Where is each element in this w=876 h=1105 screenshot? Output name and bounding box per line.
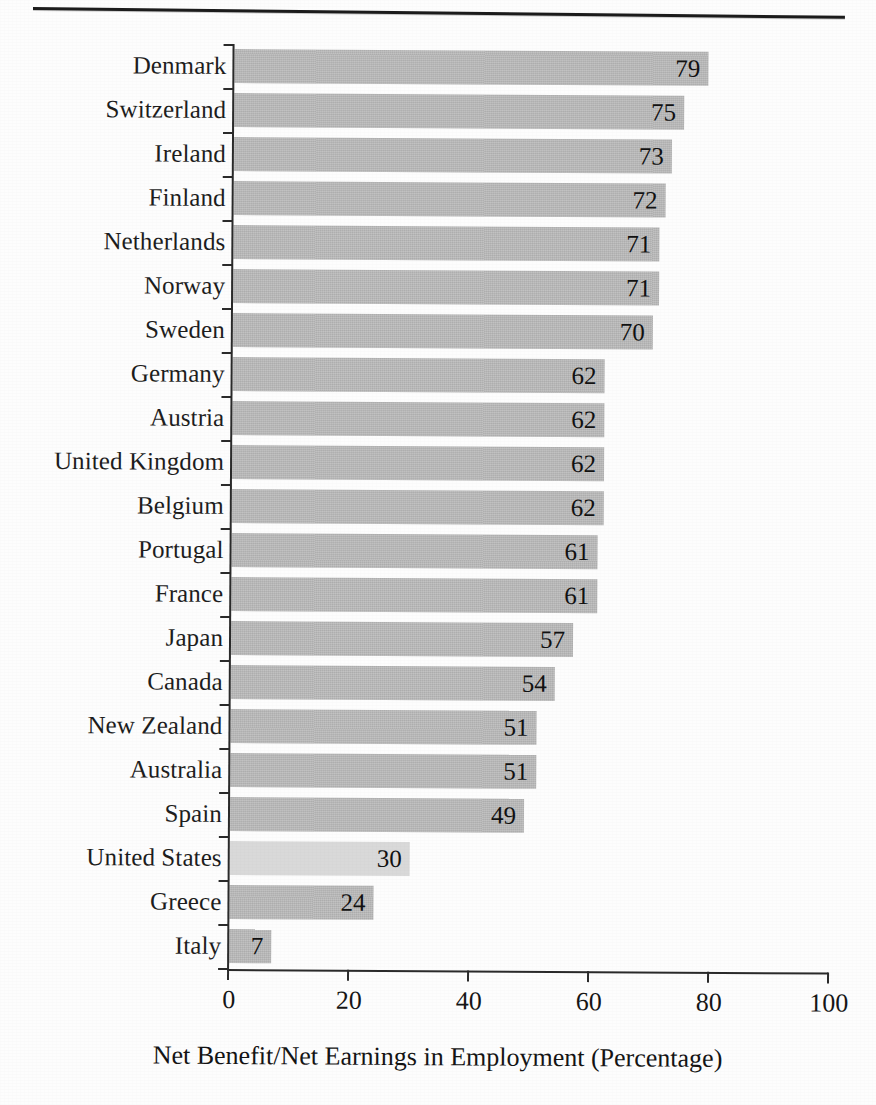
bar-category-label: United States (86, 835, 222, 880)
bar-category-label: New Zealand (87, 703, 222, 748)
y-axis-tick (223, 88, 233, 90)
y-axis-tick (221, 440, 231, 442)
bar-category-label: Austria (150, 396, 225, 440)
x-axis-tick-label: 80 (696, 988, 722, 1018)
bar-value-label: 70 (233, 313, 645, 349)
bar-track: 61 (231, 577, 851, 615)
y-axis-tick (219, 836, 229, 838)
bar-track: 75 (234, 93, 854, 131)
bar-track: 24 (229, 885, 849, 923)
figure-container: Denmark79Switzerland75Ireland73Finland72… (0, 0, 876, 1105)
horizontal-rule (33, 7, 845, 19)
y-axis-tick (219, 748, 229, 750)
bar-row: Canada54 (2, 659, 876, 708)
bar-value-label: 49 (230, 797, 516, 833)
bar-track: 61 (231, 533, 851, 571)
bar-value-label: 73 (234, 137, 664, 174)
bar-row: Greece24 (0, 879, 876, 928)
bar-track: 30 (230, 841, 850, 879)
x-axis-tick (827, 973, 829, 984)
y-axis-tick (224, 44, 234, 46)
bar-value-label: 62 (232, 489, 596, 525)
bar-value-label: 51 (230, 753, 528, 789)
bar-track: 79 (234, 49, 854, 87)
bar-category-label: Belgium (137, 483, 224, 528)
x-axis-tick-label: 0 (222, 985, 235, 1015)
y-axis-tick (220, 616, 230, 618)
y-axis-tick (220, 572, 230, 574)
bar-value-label: 30 (230, 841, 402, 876)
y-axis-tick (221, 396, 231, 398)
x-axis-tick-label: 20 (336, 986, 362, 1016)
y-axis-tick (219, 880, 229, 882)
bar-value-label: 62 (233, 357, 597, 393)
y-axis-tick (222, 308, 232, 310)
bar-track: 49 (230, 797, 850, 835)
bar-row: Denmark79 (5, 43, 876, 92)
y-axis-tick (223, 220, 233, 222)
x-axis-tick (227, 969, 229, 980)
x-axis-tick (707, 972, 709, 983)
x-axis-tick (347, 970, 349, 981)
bar-track: 51 (230, 753, 850, 791)
bar-category-label: United Kingdom (54, 439, 224, 484)
bar-row: Ireland73 (5, 131, 876, 180)
y-axis-tick (218, 924, 228, 926)
bar-category-label: Italy (175, 924, 222, 968)
y-axis-tick (221, 528, 231, 530)
bar-track: 62 (232, 445, 852, 483)
bar-row: Portugal61 (2, 527, 876, 576)
bar-track: 7 (229, 929, 849, 967)
x-axis-tick (467, 970, 469, 981)
bar-category-label: Denmark (133, 43, 227, 88)
bar-row: Belgium62 (3, 483, 876, 532)
y-axis-tick (223, 132, 233, 134)
x-axis-tick-label: 100 (809, 988, 848, 1018)
x-axis-tick-label: 40 (456, 986, 482, 1016)
bar-track: 51 (230, 709, 850, 747)
bar-category-label: Sweden (145, 307, 225, 351)
bar-category-label: Greece (150, 880, 222, 924)
bar-value-label: 79 (234, 49, 700, 86)
bar-track: 71 (233, 225, 853, 263)
bar-row: United Kingdom62 (3, 439, 876, 488)
bar-category-label: Germany (131, 351, 225, 396)
y-axis-tick (222, 352, 232, 354)
bar-category-label: Canada (147, 660, 223, 704)
x-axis-title: Net Benefit/Net Earnings in Employment (… (0, 1039, 876, 1076)
bar-value-label: 24 (229, 885, 365, 920)
bar-track: 62 (232, 489, 852, 527)
y-axis-tick (220, 704, 230, 706)
bar-value-label: 51 (230, 709, 528, 745)
bar-value-label: 62 (232, 401, 596, 437)
bar-row: Spain49 (1, 791, 876, 840)
bar-track: 62 (232, 401, 852, 439)
bar-value-label: 61 (231, 577, 589, 613)
bar-row: Finland72 (5, 175, 876, 224)
bar-row: Sweden70 (4, 307, 876, 356)
bar-row: Switzerland75 (5, 87, 876, 136)
bar-track: 73 (234, 137, 854, 175)
bar-category-label: Japan (165, 616, 223, 660)
bar-row: Austria62 (3, 395, 876, 444)
bar-track: 62 (233, 357, 853, 395)
top-rule-container (0, 0, 876, 40)
bar-category-label: Portugal (138, 527, 224, 572)
y-axis-tick (223, 176, 233, 178)
bar-row: Norway71 (4, 263, 876, 312)
y-axis-tick (221, 484, 231, 486)
bar-track: 54 (231, 665, 851, 703)
bar-value-label: 7 (229, 929, 263, 963)
y-axis-tick (219, 792, 229, 794)
bar-row: Australia51 (1, 747, 876, 796)
bar-row: Germany62 (3, 351, 876, 400)
bar-row: United States30 (1, 835, 876, 884)
bar-row: Italy7 (0, 923, 876, 972)
bar-track: 70 (233, 313, 853, 351)
bar-row: Japan57 (2, 615, 876, 664)
bar-row: New Zealand51 (1, 703, 876, 752)
bar-category-label: Switzerland (106, 87, 227, 132)
x-axis-tick-label: 60 (576, 987, 602, 1017)
bar-category-label: Netherlands (103, 219, 225, 264)
bar-category-label: Ireland (154, 132, 226, 176)
